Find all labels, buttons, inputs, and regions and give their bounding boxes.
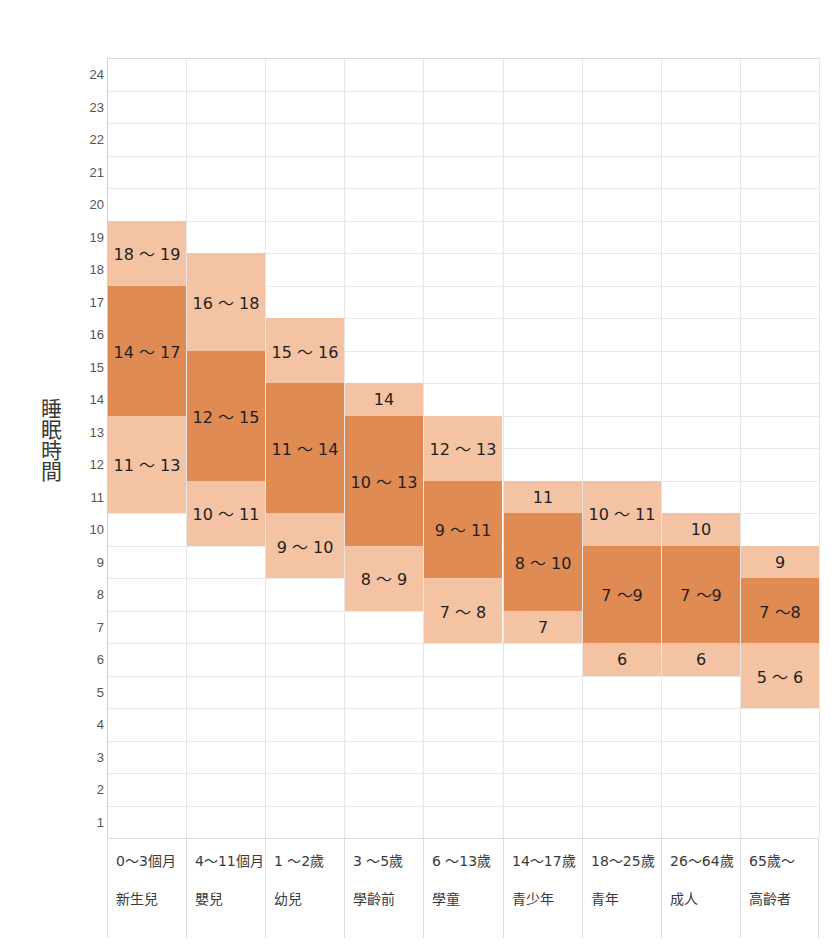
category-age-label: 26〜64歲 [670,850,734,870]
y-axis-tick-2: 2 [88,782,104,797]
bar-band-label: 5 〜 6 [741,664,819,688]
y-axis-title: 睡眠時間 [30,398,64,482]
bar-band-upper-3: 15 〜 16 [266,318,344,383]
gridline-vertical [819,58,820,838]
bar-band-lower-5: 7 〜 8 [424,578,502,643]
y-axis-tick-labels: 242322212019181716151413121110987654321 [88,58,104,838]
bar-column-9[interactable]: 97 〜85 〜 6 [741,58,819,838]
y-axis-tick-17: 17 [88,294,104,309]
plot-top-border [107,58,819,59]
bar-band-lower-7: 6 [583,643,661,676]
bar-band-lower-1: 11 〜 13 [108,416,186,514]
sleep-duration-chart-page: 睡眠時間 24232221201918171615141312111098765… [0,0,831,946]
category-age-label: 18〜25歲 [591,850,655,870]
bar-band-core-4: 10 〜 13 [345,416,423,546]
plot-area: 18 〜 1914 〜 1711 〜 1316 〜 1812 〜 1510 〜 … [107,58,819,838]
category-cell-5: 6 〜13歲學童 [423,838,502,938]
category-cell-7: 18〜25歲青年 [582,838,661,938]
bar-band-upper-1: 18 〜 19 [108,221,186,286]
category-group-label: 學齡前 [353,888,395,908]
category-age-label: 1 〜2歲 [274,850,324,870]
y-axis-tick-11: 11 [88,489,104,504]
bar-band-label: 12 〜 13 [424,436,502,460]
bar-band-label: 14 [345,390,423,409]
category-cell-8: 26〜64歲成人 [661,838,740,938]
bar-column-6[interactable]: 118 〜 107 [504,58,582,838]
y-axis-tick-14: 14 [88,392,104,407]
y-axis-tick-6: 6 [88,652,104,667]
bar-band-core-1: 14 〜 17 [108,286,186,416]
bar-column-4[interactable]: 1410 〜 138 〜 9 [345,58,423,838]
bar-band-core-3: 11 〜 14 [266,383,344,513]
y-axis-tick-15: 15 [88,359,104,374]
category-axis: 0〜3個月新生兒4〜11個月嬰兒1 〜2歲幼兒3 〜5歲學齡前6 〜13歲學童1… [107,838,819,938]
category-group-label: 學童 [432,888,460,908]
bar-band-label: 7 〜 8 [424,599,502,623]
bar-band-label: 11 〜 13 [108,452,186,476]
bar-band-label: 7 [504,617,582,636]
bar-band-lower-2: 10 〜 11 [187,481,265,546]
bar-band-label: 8 〜 9 [345,566,423,590]
bar-band-label: 8 〜 10 [504,550,582,574]
category-group-label: 幼兒 [274,888,302,908]
bar-band-upper-4: 14 [345,383,423,416]
category-age-label: 0〜3個月 [116,850,176,870]
category-cell-2: 4〜11個月嬰兒 [186,838,265,938]
category-cell-9: 65歲〜高齡者 [740,838,819,938]
bar-band-upper-7: 10 〜 11 [583,481,661,546]
bar-layer: 18 〜 1914 〜 1711 〜 1316 〜 1812 〜 1510 〜 … [107,58,819,838]
bar-column-7[interactable]: 10 〜 117 〜96 [583,58,661,838]
bar-band-lower-3: 9 〜 10 [266,513,344,578]
category-age-label: 4〜11個月 [195,850,264,870]
bar-band-core-9: 7 〜8 [741,578,819,643]
category-group-label: 青少年 [512,888,554,908]
y-axis-tick-24: 24 [88,67,104,82]
bar-column-5[interactable]: 12 〜 139 〜 117 〜 8 [424,58,502,838]
y-axis-line [107,58,108,838]
bar-band-core-5: 9 〜 11 [424,481,502,579]
bar-column-8[interactable]: 107 〜96 [662,58,740,838]
bar-band-label: 16 〜 18 [187,290,265,314]
y-axis-tick-3: 3 [88,749,104,764]
bar-band-label: 11 〜 14 [266,436,344,460]
bar-band-label: 10 〜 11 [187,501,265,525]
y-axis-tick-19: 19 [88,229,104,244]
bar-band-label: 12 〜 15 [187,404,265,428]
bar-band-upper-2: 16 〜 18 [187,253,265,351]
y-axis-tick-9: 9 [88,554,104,569]
bar-band-label: 10 〜 11 [583,501,661,525]
y-axis-tick-12: 12 [88,457,104,472]
y-axis-tick-5: 5 [88,684,104,699]
bar-band-lower-9: 5 〜 6 [741,643,819,708]
bar-band-label: 18 〜 19 [108,241,186,265]
category-group-label: 青年 [591,888,619,908]
y-axis-tick-13: 13 [88,424,104,439]
bar-band-upper-6: 11 [504,481,582,514]
category-group-label: 嬰兒 [195,888,223,908]
bar-band-label: 11 [504,487,582,506]
bar-column-1[interactable]: 18 〜 1914 〜 1711 〜 13 [108,58,186,838]
bar-band-label: 9 〜 11 [424,517,502,541]
bar-band-label: 9 〜 10 [266,534,344,558]
category-age-label: 65歲〜 [749,850,795,870]
category-group-label: 高齡者 [749,888,791,908]
category-age-label: 6 〜13歲 [432,850,491,870]
bar-band-label: 7 〜8 [741,599,819,623]
y-axis-tick-7: 7 [88,619,104,634]
category-group-label: 新生兒 [116,888,158,908]
y-axis-tick-1: 1 [88,814,104,829]
y-axis-tick-10: 10 [88,522,104,537]
bar-band-lower-8: 6 [662,643,740,676]
bar-band-core-2: 12 〜 15 [187,351,265,481]
category-age-label: 14〜17歲 [512,850,576,870]
bar-column-3[interactable]: 15 〜 1611 〜 149 〜 10 [266,58,344,838]
bar-band-core-6: 8 〜 10 [504,513,582,611]
bar-band-upper-5: 12 〜 13 [424,416,502,481]
bar-band-label: 7 〜9 [583,582,661,606]
category-cell-1: 0〜3個月新生兒 [107,838,186,938]
y-axis-tick-4: 4 [88,717,104,732]
y-axis-tick-22: 22 [88,132,104,147]
category-age-label: 3 〜5歲 [353,850,403,870]
bar-column-2[interactable]: 16 〜 1812 〜 1510 〜 11 [187,58,265,838]
y-axis-tick-8: 8 [88,587,104,602]
